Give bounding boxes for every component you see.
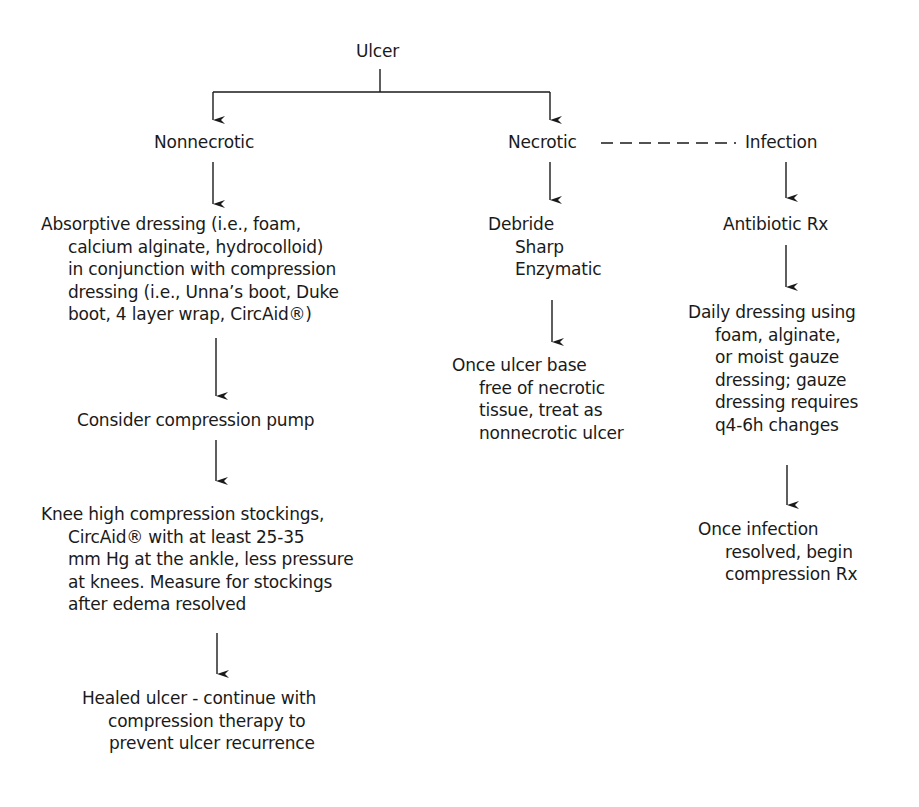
node-infection: Infection	[745, 131, 817, 154]
node-once-ulcer-base-free: Once ulcer base free of necrotic tissue,…	[452, 354, 624, 444]
node-debride: Debride Sharp Enzymatic	[488, 213, 601, 281]
node-knee-high-stockings: Knee high compression stockings, CircAid…	[41, 503, 353, 616]
node-ulcer-label: Ulcer	[356, 40, 399, 63]
node-once-infection-resolved: Once infection resolved, begin compressi…	[698, 518, 857, 586]
node-daily-dressing: Daily dressing using foam, alginate, or …	[688, 301, 858, 436]
node-healed-ulcer: Healed ulcer - continue with compression…	[82, 687, 316, 755]
node-absorptive-dressing: Absorptive dressing (i.e., foam, calcium…	[41, 213, 339, 326]
node-nonnecrotic: Nonnecrotic	[154, 131, 254, 154]
node-antibiotic-rx: Antibiotic Rx	[723, 213, 828, 236]
node-necrotic: Necrotic	[508, 131, 577, 154]
node-ulcer: Ulcer	[356, 40, 399, 63]
node-compression-pump: Consider compression pump	[77, 409, 314, 432]
